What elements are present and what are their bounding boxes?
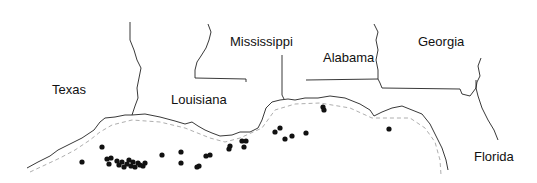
sample-point <box>282 136 287 141</box>
sample-point <box>321 107 326 112</box>
state-label-alabama: Alabama <box>323 51 374 64</box>
sample-point <box>227 143 232 148</box>
sample-point <box>303 130 308 135</box>
sample-point <box>178 149 183 154</box>
state-label-florida: Florida <box>474 150 514 163</box>
sample-point <box>241 144 246 149</box>
sample-point <box>196 163 201 168</box>
state-label-georgia: Georgia <box>418 35 464 48</box>
sample-point <box>159 152 164 157</box>
sample-point <box>142 160 147 165</box>
sample-point <box>243 138 248 143</box>
sample-point <box>272 129 277 134</box>
sample-point <box>386 126 391 131</box>
sample-point <box>79 159 84 164</box>
sample-point <box>99 144 104 149</box>
sample-point <box>130 159 135 164</box>
sample-point <box>178 160 183 165</box>
sample-point <box>277 125 282 130</box>
gulf-coast-map: TexasLouisianaMississippiAlabamaGeorgiaF… <box>0 0 537 183</box>
sample-point <box>108 155 113 160</box>
state-label-texas: Texas <box>52 83 86 96</box>
sample-point <box>119 159 124 164</box>
state-label-mississippi: Mississippi <box>230 35 293 48</box>
sample-point <box>207 152 212 157</box>
sample-point <box>289 133 294 138</box>
sample-point <box>106 161 111 166</box>
state-label-louisiana: Louisiana <box>171 93 227 106</box>
